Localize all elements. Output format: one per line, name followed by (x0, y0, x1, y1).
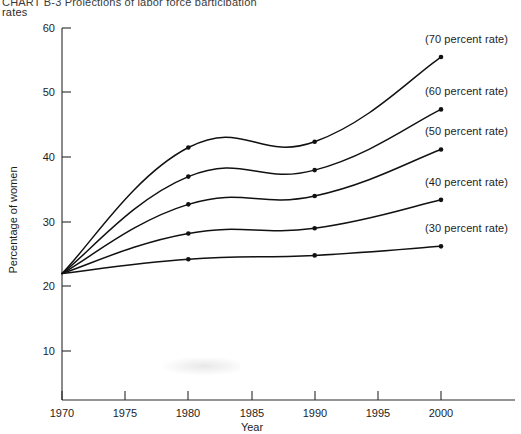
data-point-marker (439, 198, 444, 203)
data-point-marker (312, 226, 317, 231)
data-point-marker (312, 253, 317, 258)
x-axis-title: Year (241, 421, 264, 433)
series-label: (50 percent rate) (425, 125, 508, 137)
data-point-marker (312, 194, 317, 199)
y-tick-label: 30 (43, 216, 55, 228)
x-axis-tick-labels: 1970 1975 1980 1985 1990 1995 2000 (50, 407, 453, 419)
x-axis-ticks (62, 391, 441, 400)
y-axis-ticks (62, 28, 71, 351)
series-label: (30 percent rate) (425, 222, 508, 234)
series-line (62, 246, 441, 273)
data-point-marker (186, 202, 191, 207)
x-tick-label: 1980 (176, 407, 200, 419)
y-axis-title: Percentage of women (7, 166, 19, 273)
series-line (62, 57, 441, 273)
data-point-marker (439, 147, 444, 152)
series-line (62, 149, 441, 273)
x-tick-label: 2000 (429, 407, 453, 419)
y-tick-label: 40 (43, 151, 55, 163)
y-tick-label: 60 (43, 22, 55, 34)
data-point-marker (439, 55, 444, 60)
y-tick-label: 20 (43, 280, 55, 292)
data-point-marker (312, 139, 317, 144)
x-tick-label: 1995 (366, 407, 390, 419)
y-tick-label: 10 (43, 345, 55, 357)
data-point-marker (439, 244, 444, 249)
x-tick-label: 1985 (240, 407, 264, 419)
series-label: (70 percent rate) (425, 33, 508, 45)
data-point-marker (186, 231, 191, 236)
x-tick-label: 1990 (303, 407, 327, 419)
y-axis-tick-labels: 60 50 40 30 20 10 (43, 22, 55, 357)
series-layer: (70 percent rate)(60 percent rate)(50 pe… (62, 33, 508, 273)
data-point-marker (312, 168, 317, 173)
series-label: (40 percent rate) (425, 176, 508, 188)
data-point-marker (439, 107, 444, 112)
series-label: (60 percent rate) (425, 85, 508, 97)
line-chart-plot: 60 50 40 30 20 10 1970 1975 1980 1985 19… (0, 0, 521, 434)
chart-container: CHART B-3 Projections of labor force par… (0, 0, 521, 434)
x-tick-label: 1970 (50, 407, 74, 419)
series-line (62, 109, 441, 273)
x-tick-label: 1975 (113, 407, 137, 419)
data-point-marker (186, 257, 191, 262)
y-tick-label: 50 (43, 86, 55, 98)
data-point-marker (186, 174, 191, 179)
data-point-marker (186, 145, 191, 150)
